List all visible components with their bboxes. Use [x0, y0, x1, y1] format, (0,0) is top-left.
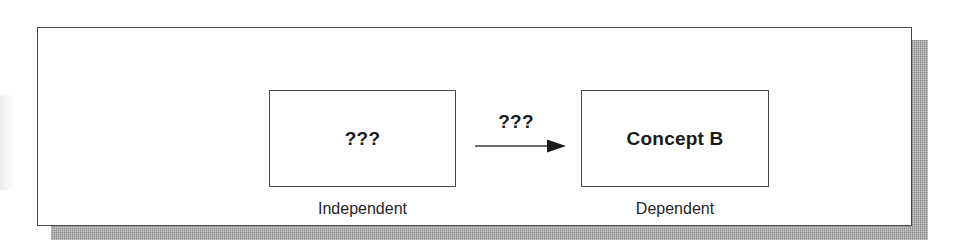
concept-box-dependent-caption: Dependent	[581, 200, 769, 218]
arrow-label: ???	[475, 111, 557, 133]
relationship-arrow-icon	[475, 138, 567, 154]
concept-box-independent-caption: Independent	[269, 200, 456, 218]
concept-box-dependent: Concept B	[581, 90, 769, 187]
concept-box-independent-label: ???	[270, 128, 455, 150]
outer-frame: ??? Independent ??? Concept B Dependent	[37, 27, 912, 226]
concept-box-dependent-label: Concept B	[582, 128, 768, 150]
concept-box-independent: ???	[269, 90, 456, 187]
diagram-canvas: ??? Independent ??? Concept B Dependent	[0, 0, 955, 244]
scan-artifact	[0, 95, 14, 190]
